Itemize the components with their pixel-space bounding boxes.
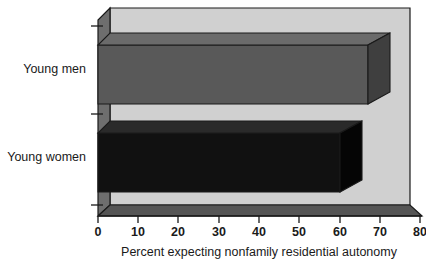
bar-young-men[interactable] xyxy=(98,33,390,104)
bar-young-women-side xyxy=(340,121,362,192)
x-tick-label-70: 70 xyxy=(373,225,387,239)
x-tick-label-30: 30 xyxy=(212,225,226,239)
x-tick-label-10: 10 xyxy=(131,225,145,239)
x-tick-label-40: 40 xyxy=(252,225,266,239)
floor-plane xyxy=(98,205,422,216)
category-label-young-women: Young women xyxy=(7,150,86,164)
bar-young-men-front xyxy=(98,45,368,104)
x-axis-title: Percent expecting nonfamily residential … xyxy=(121,245,398,259)
bar-young-women-top xyxy=(98,121,362,133)
x-tick-label-60: 60 xyxy=(333,225,347,239)
bar-young-men-side xyxy=(368,33,390,104)
x-axis-ticks xyxy=(98,216,420,223)
x-tick-label-0: 0 xyxy=(95,225,102,239)
x-tick-label-80: 80 xyxy=(413,225,426,239)
chart-container: 0 10 20 30 40 50 60 70 80 Young men Youn… xyxy=(0,0,426,264)
bar-young-women[interactable] xyxy=(98,121,362,192)
x-tick-labels: 0 10 20 30 40 50 60 70 80 xyxy=(95,225,426,239)
category-label-young-men: Young men xyxy=(23,62,86,76)
bar-young-women-front xyxy=(98,133,340,192)
bar-young-men-top xyxy=(98,33,390,45)
x-tick-label-50: 50 xyxy=(292,225,306,239)
bar-chart-3d: 0 10 20 30 40 50 60 70 80 Young men Youn… xyxy=(0,0,426,264)
x-tick-label-20: 20 xyxy=(171,225,185,239)
